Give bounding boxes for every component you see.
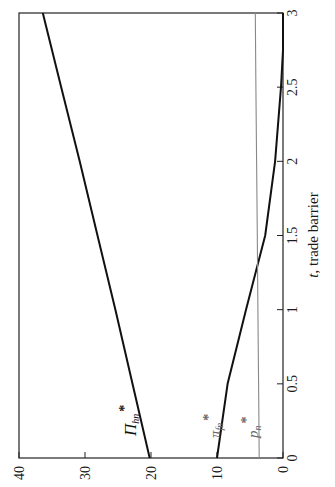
t-tick-label: 0 bbox=[285, 455, 300, 462]
t-tick-label: 0.5 bbox=[285, 375, 300, 393]
series-label: πfn* bbox=[201, 414, 225, 438]
value-tick-label: 20 bbox=[144, 466, 159, 480]
value-tick-label: 40 bbox=[12, 466, 27, 480]
x-axis-title: t, trade barrier bbox=[305, 192, 321, 277]
value-tick-label: 0 bbox=[276, 466, 291, 473]
t-axis: 00.511.522.53 bbox=[277, 10, 300, 462]
t-tick-label: 3 bbox=[285, 10, 300, 17]
pi-fn-line bbox=[217, 13, 283, 458]
value-tick-label: 10 bbox=[210, 466, 225, 480]
series-label: Πhn* bbox=[117, 405, 141, 437]
t-tick-label: 1 bbox=[285, 306, 300, 313]
chart: 010203040 00.511.522.53 Πhn*πfn*pn* t, t… bbox=[0, 0, 335, 487]
Pi-hn-line bbox=[43, 13, 150, 458]
series-layer bbox=[43, 13, 283, 458]
t-tick-label: 2.5 bbox=[285, 78, 300, 96]
t-tick-label: 2 bbox=[285, 158, 300, 165]
value-tick-label: 30 bbox=[78, 466, 93, 480]
p-n-line bbox=[255, 13, 259, 458]
value-axis: 010203040 bbox=[12, 452, 291, 480]
t-tick-label: 1.5 bbox=[285, 227, 300, 245]
